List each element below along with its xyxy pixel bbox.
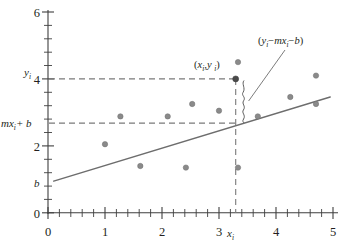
data-point — [313, 73, 318, 78]
label-y-i: yi — [23, 66, 31, 81]
data-point — [190, 101, 195, 106]
x-tick-label-3: 3 — [216, 225, 222, 239]
regression-line — [54, 97, 331, 181]
y-tick-label-0: 0 — [34, 207, 40, 221]
scatter-plot-svg: 6 4 2 0 — [0, 0, 343, 250]
highlighted-data-point — [233, 76, 239, 82]
data-point — [102, 142, 107, 147]
data-point — [235, 59, 240, 64]
data-point-group — [102, 59, 318, 170]
y-tick-label-2: 2 — [34, 140, 40, 154]
residual-leader-line — [249, 50, 285, 101]
label-point-xi-yi: (xi,y i) — [194, 59, 220, 73]
x-tick-label-1: 1 — [102, 225, 108, 239]
data-point — [138, 163, 143, 168]
data-point — [118, 114, 123, 119]
y-tick-label-6: 6 — [34, 6, 40, 20]
data-point — [255, 114, 260, 119]
x-tick-label-5: 5 — [330, 225, 336, 239]
data-point — [183, 165, 188, 170]
data-point — [235, 165, 240, 170]
label-residual-expression: (yi−mxi−b) — [258, 35, 304, 49]
least-squares-figure: 6 4 2 0 — [0, 0, 343, 250]
residual-brace — [243, 81, 245, 124]
data-point — [216, 108, 221, 113]
data-point — [288, 94, 293, 99]
y-tick-label-4: 4 — [34, 73, 41, 87]
data-point — [165, 114, 170, 119]
label-b-intercept: b — [34, 177, 40, 189]
x-sub-i-annotation: xi — [226, 227, 234, 242]
label-mx-i-plus-b: mxi+ b — [1, 117, 32, 132]
x-axis: 0 1 2 3 4 5 xi — [45, 207, 338, 242]
data-point — [313, 101, 318, 106]
x-tick-label-0: 0 — [45, 225, 51, 239]
x-tick-label-2: 2 — [159, 225, 165, 239]
x-tick-label-4: 4 — [273, 225, 280, 239]
